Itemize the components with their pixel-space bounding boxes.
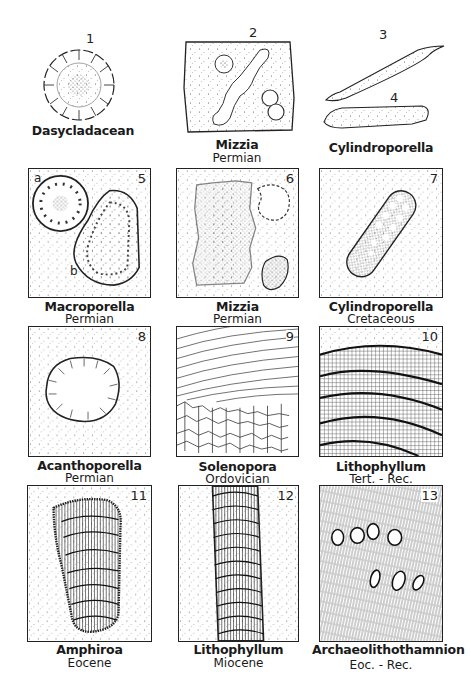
panel-archaeolithothamnion: 13 — [319, 485, 443, 642]
panel-cylindroporella: 7 — [319, 168, 443, 298]
figure-number-3: 3 — [379, 28, 387, 41]
figure-7-age: Cretaceous — [319, 313, 443, 327]
figure-number-9: 9 — [286, 330, 294, 343]
figure-3-genus: Cylindroporella — [318, 141, 444, 155]
panel-solenopora: 9 — [176, 326, 299, 457]
figure-number-10: 10 — [421, 330, 438, 343]
panel-amphiroa: 11 — [27, 485, 152, 642]
figure-5-age: Permian — [28, 313, 151, 327]
panel-acanthoporella: 8 — [28, 326, 151, 457]
panel-macroporella: a b 5 — [28, 168, 151, 298]
sublabel-a: a — [34, 171, 41, 185]
figure-13-age: Eoc. - Rec. — [319, 659, 443, 673]
panel-mizzia: 6 — [176, 168, 299, 298]
figure-number-11: 11 — [130, 489, 147, 502]
figure-number-7: 7 — [430, 172, 438, 185]
figure-8-age: Permian — [28, 472, 151, 486]
sublabel-b: b — [70, 264, 78, 278]
cylindroporella-illustration — [322, 42, 446, 134]
figure-6-age: Permian — [176, 313, 299, 327]
figure-number-1: 1 — [86, 32, 94, 45]
figure-number-4: 4 — [390, 91, 398, 104]
figure-2-age: Permian — [178, 152, 296, 166]
dasycladacean-illustration — [40, 46, 118, 124]
panel-lithophyllum-tert: 10 — [319, 326, 443, 457]
figure-number-5: 5 — [138, 172, 146, 185]
figure-number-6: 6 — [286, 172, 294, 185]
figure-number-12: 12 — [277, 489, 294, 502]
panel-lithophyllum-miocene: 12 — [178, 485, 299, 642]
figure-number-8: 8 — [138, 330, 146, 343]
figure-11-age: Eocene — [27, 657, 152, 671]
mizzia-slab-illustration — [180, 38, 296, 134]
figure-1-genus: Dasycladacean — [18, 124, 148, 138]
figure-13-genus: Archaeolithothamnion — [312, 643, 450, 657]
figure-number-13: 13 — [421, 489, 438, 502]
figure-12-age: Miocene — [178, 657, 299, 671]
